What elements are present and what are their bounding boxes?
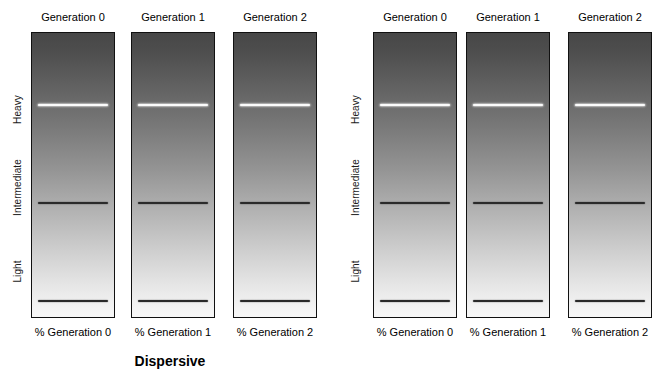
band-light (473, 300, 543, 302)
tube-footer-label: % Generation 0 (15, 326, 131, 339)
tube-header-label: Generation 2 (554, 11, 666, 24)
band-heavy (38, 104, 108, 106)
axis-label-intermediate-text: Intermediate (12, 153, 23, 223)
axis-label-heavy-text: Heavy (12, 75, 23, 145)
tube-body (568, 32, 652, 318)
band-heavy (240, 104, 310, 106)
axis-label-heavy-text: Heavy (350, 75, 361, 145)
tube-footer-label: % Generation 1 (450, 326, 566, 339)
band-intermediate (575, 202, 645, 204)
tube-body (131, 32, 215, 318)
band-intermediate (380, 202, 450, 204)
tube-header-label: Generation 0 (17, 11, 129, 24)
tube-header-label: Generation 1 (117, 11, 229, 24)
axis-label-light-text: Light (12, 237, 23, 307)
tube-body (373, 32, 457, 318)
band-heavy (575, 104, 645, 106)
band-light (380, 300, 450, 302)
figure-caption: Dispersive (0, 353, 340, 369)
band-intermediate (473, 202, 543, 204)
axis-label-light-text: Light (350, 237, 361, 307)
density-axis-left: Heavy Intermediate Light (6, 32, 28, 318)
axis-label-intermediate-text: Intermediate (350, 153, 361, 223)
band-heavy (138, 104, 208, 106)
band-heavy (473, 104, 543, 106)
tube-body (466, 32, 550, 318)
band-light (138, 300, 208, 302)
tube-body (233, 32, 317, 318)
band-intermediate (240, 202, 310, 204)
tube-footer-label: % Generation 2 (552, 326, 668, 339)
tube-group-right: Heavy Intermediate Light Generation 0 % … (340, 0, 671, 367)
band-intermediate (138, 202, 208, 204)
band-light (240, 300, 310, 302)
tube-group-left: Heavy Intermediate Light Generation 0 % … (0, 0, 340, 367)
tube-header-label: Generation 2 (219, 11, 331, 24)
tube-header-label: Generation 1 (452, 11, 564, 24)
density-axis-right: Heavy Intermediate Light (344, 32, 366, 318)
band-light (38, 300, 108, 302)
band-heavy (380, 104, 450, 106)
tube-footer-label: % Generation 1 (115, 326, 231, 339)
band-intermediate (38, 202, 108, 204)
tube-footer-label: % Generation 2 (217, 326, 333, 339)
band-light (575, 300, 645, 302)
tube-body (31, 32, 115, 318)
